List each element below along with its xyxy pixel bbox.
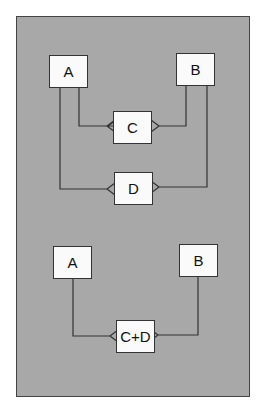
entity-a-top: A xyxy=(49,55,88,88)
entity-c-plus-d: C+D xyxy=(116,320,155,353)
entity-a-bottom: A xyxy=(53,246,92,279)
entity-label: A xyxy=(67,254,77,271)
entity-c: C xyxy=(113,111,152,144)
entity-label: B xyxy=(193,252,203,269)
entity-d: D xyxy=(114,172,153,205)
entity-label: B xyxy=(190,61,200,78)
entity-label: C xyxy=(127,119,138,136)
entity-label: A xyxy=(63,63,73,80)
entity-b-bottom: B xyxy=(179,244,218,277)
entity-label: D xyxy=(128,180,139,197)
entity-label: C+D xyxy=(120,328,150,345)
entity-b-top: B xyxy=(176,53,215,86)
